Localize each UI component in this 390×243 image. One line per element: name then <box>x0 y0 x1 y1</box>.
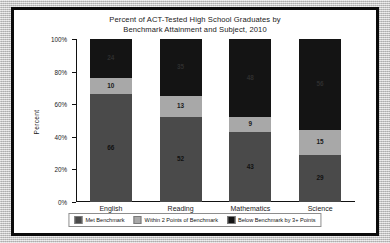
bar-segment[interactable]: 29 <box>299 155 341 202</box>
x-axis-category-label: Reading <box>168 205 194 212</box>
bar-group-mathematics[interactable]: 48943Mathematics <box>216 39 286 202</box>
bar-group-science[interactable]: 561529Science <box>285 39 355 202</box>
x-axis-category-label: Science <box>308 205 333 212</box>
bar-segment-value: 35 <box>177 64 184 70</box>
y-axis-tick-label: 100% <box>51 36 67 43</box>
legend-label: Met Benchmark <box>85 217 124 223</box>
bar-segment[interactable]: 24 <box>90 39 132 78</box>
bar-segment[interactable]: 9 <box>229 117 271 132</box>
chart-frame: Percent of ACT-Tested High School Gradua… <box>11 7 379 236</box>
bar-segment-value: 9 <box>249 121 253 127</box>
stacked-bar[interactable]: 351352 <box>160 39 202 202</box>
y-axis-tick: 0% <box>72 202 76 203</box>
bar-segment-value: 15 <box>317 139 324 145</box>
bar-segment[interactable]: 15 <box>299 130 341 154</box>
bar-segment[interactable]: 13 <box>160 96 202 117</box>
legend-swatch-icon <box>74 216 82 224</box>
legend-item[interactable]: Met Benchmark <box>74 216 124 224</box>
bar-segment[interactable]: 43 <box>229 132 271 202</box>
bar-segment-value: 48 <box>247 75 254 81</box>
stacked-bar[interactable]: 241066 <box>90 39 132 202</box>
chart-canvas: Percent of ACT-Tested High School Gradua… <box>14 10 376 233</box>
bar-segment-value: 56 <box>317 81 324 87</box>
bar-segment-value: 52 <box>177 156 184 162</box>
y-axis-tick-label: 40% <box>54 133 67 140</box>
stacked-bar[interactable]: 561529 <box>299 39 341 202</box>
chart-title-line-1: Percent of ACT-Tested High School Gradua… <box>14 15 376 25</box>
y-axis-tick-label: 0% <box>58 199 67 206</box>
bar-segment-value: 13 <box>177 103 184 109</box>
chart-title-line-2: Benchmark Attainment and Subject, 2010 <box>14 25 376 35</box>
bar-segment-value: 66 <box>107 145 114 151</box>
stacked-bar[interactable]: 48943 <box>229 39 271 202</box>
legend-item[interactable]: Below Benchmark by 3+ Points <box>227 216 316 224</box>
chart-legend: Met BenchmarkWithin 2 Points of Benchmar… <box>68 213 321 227</box>
plot-area: 0%20%40%60%80%100% 241066English351352Re… <box>76 39 355 202</box>
legend-swatch-icon <box>227 216 235 224</box>
page-background: Percent of ACT-Tested High School Gradua… <box>0 0 390 243</box>
bar-segment-value: 10 <box>107 83 114 89</box>
y-axis-tick-label: 20% <box>54 166 67 173</box>
bar-segment[interactable]: 48 <box>229 39 271 117</box>
bar-group-reading[interactable]: 351352Reading <box>146 39 216 202</box>
bar-group-english[interactable]: 241066English <box>76 39 146 202</box>
legend-label: Below Benchmark by 3+ Points <box>238 217 316 223</box>
bar-segment-value: 29 <box>317 175 324 181</box>
bars-layer: 241066English351352Reading48943Mathemati… <box>76 39 355 202</box>
x-axis-category-label: Mathematics <box>231 205 271 212</box>
bar-segment-value: 43 <box>247 164 254 170</box>
y-axis-tick-label: 60% <box>54 101 67 108</box>
legend-item[interactable]: Within 2 Points of Benchmark <box>134 216 218 224</box>
bar-segment[interactable]: 56 <box>299 39 341 130</box>
bar-segment-value: 24 <box>107 55 114 61</box>
bar-segment[interactable]: 66 <box>90 94 132 202</box>
bar-segment[interactable]: 35 <box>160 39 202 96</box>
chart-title: Percent of ACT-Tested High School Gradua… <box>14 15 376 35</box>
y-axis-tick-label: 80% <box>54 68 67 75</box>
y-axis-title: Percent <box>33 109 40 134</box>
bar-segment[interactable]: 10 <box>90 78 132 94</box>
x-axis-category-label: English <box>99 205 122 212</box>
bar-segment[interactable]: 52 <box>160 117 202 202</box>
legend-label: Within 2 Points of Benchmark <box>145 217 218 223</box>
legend-swatch-icon <box>134 216 142 224</box>
